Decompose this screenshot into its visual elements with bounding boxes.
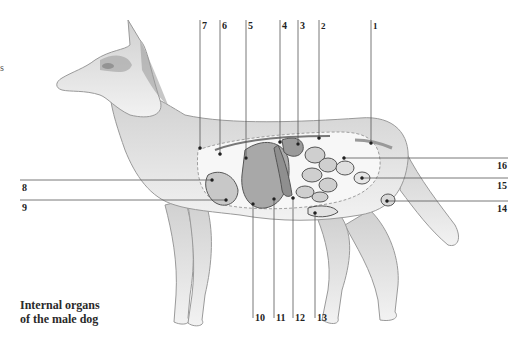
dog-anatomy-diagram: s xyxy=(0,0,526,341)
label-16: 16 xyxy=(497,161,507,171)
dog-illustration xyxy=(0,0,526,341)
label-1: 1 xyxy=(373,21,378,31)
label-13: 13 xyxy=(317,313,327,323)
label-6: 6 xyxy=(222,21,227,31)
caption-line-1: Internal organs xyxy=(20,298,100,312)
caption-line-2: of the male dog xyxy=(20,312,100,326)
label-12: 12 xyxy=(295,313,305,323)
label-15: 15 xyxy=(497,181,507,191)
stomach xyxy=(282,138,303,156)
label-10: 10 xyxy=(255,313,265,323)
kidney xyxy=(336,161,354,175)
label-9: 9 xyxy=(22,203,27,213)
diagram-caption: Internal organs of the male dog xyxy=(20,298,100,326)
label-11: 11 xyxy=(276,313,285,323)
label-2: 2 xyxy=(321,21,326,31)
label-3: 3 xyxy=(300,21,305,31)
label-4: 4 xyxy=(282,21,287,31)
label-7: 7 xyxy=(202,21,207,31)
label-14: 14 xyxy=(497,204,507,214)
label-5: 5 xyxy=(248,21,253,31)
label-8: 8 xyxy=(22,183,27,193)
